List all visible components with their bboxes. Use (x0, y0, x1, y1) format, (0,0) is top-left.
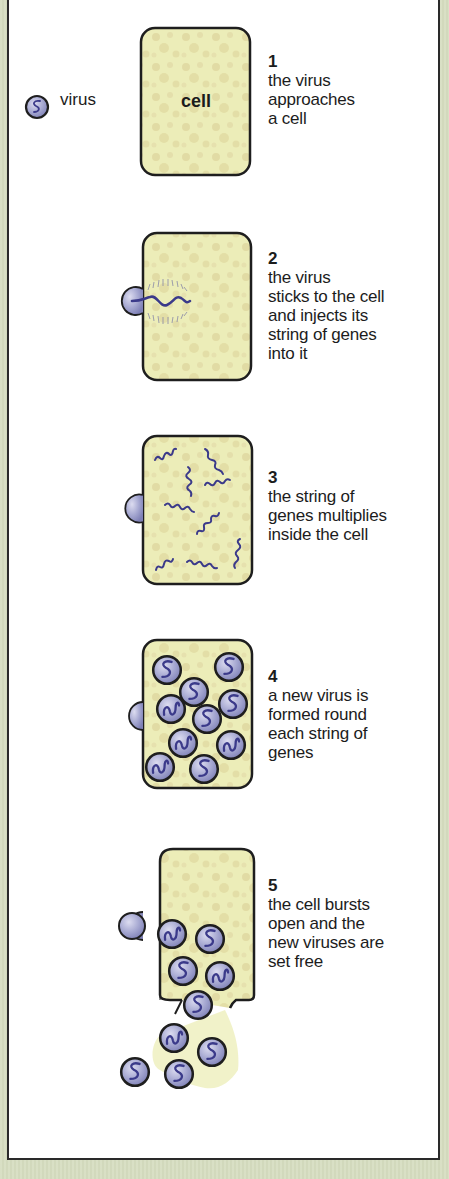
cell-step-3 (125, 436, 252, 584)
step-description: the virus sticks to the cell and injects… (268, 268, 384, 363)
step-1-text: 1 the virus approaches a cell (268, 52, 355, 128)
legend-virus-label: virus (60, 90, 96, 110)
step-number: 5 (268, 876, 384, 895)
step-number: 4 (268, 667, 368, 686)
cell-step-4 (129, 640, 252, 788)
virus-lifecycle-diagram (0, 0, 449, 1179)
step-number: 1 (268, 52, 355, 71)
step-description: the cell bursts open and the new viruses… (268, 895, 384, 971)
step-description: the virus approaches a cell (268, 71, 355, 128)
attached-virus-icon (125, 495, 143, 523)
step-5-text: 5 the cell bursts open and the new virus… (268, 876, 384, 971)
step-description: the string of genes multiplies inside th… (268, 487, 387, 544)
step-number: 3 (268, 468, 387, 487)
cell-step-5 (119, 849, 254, 1088)
step-3-text: 3 the string of genes multiplies inside … (268, 468, 387, 544)
legend-cell-label: cell (140, 91, 252, 112)
legend-virus-icon (26, 96, 48, 118)
attached-virus-icon (129, 702, 143, 730)
step-4-text: 4 a new virus is formed round each strin… (268, 667, 368, 762)
step-description: a new virus is formed round each string … (268, 686, 368, 762)
cell-step-2 (122, 233, 251, 380)
step-2-text: 2 the virus sticks to the cell and injec… (268, 249, 384, 363)
step-number: 2 (268, 249, 384, 268)
